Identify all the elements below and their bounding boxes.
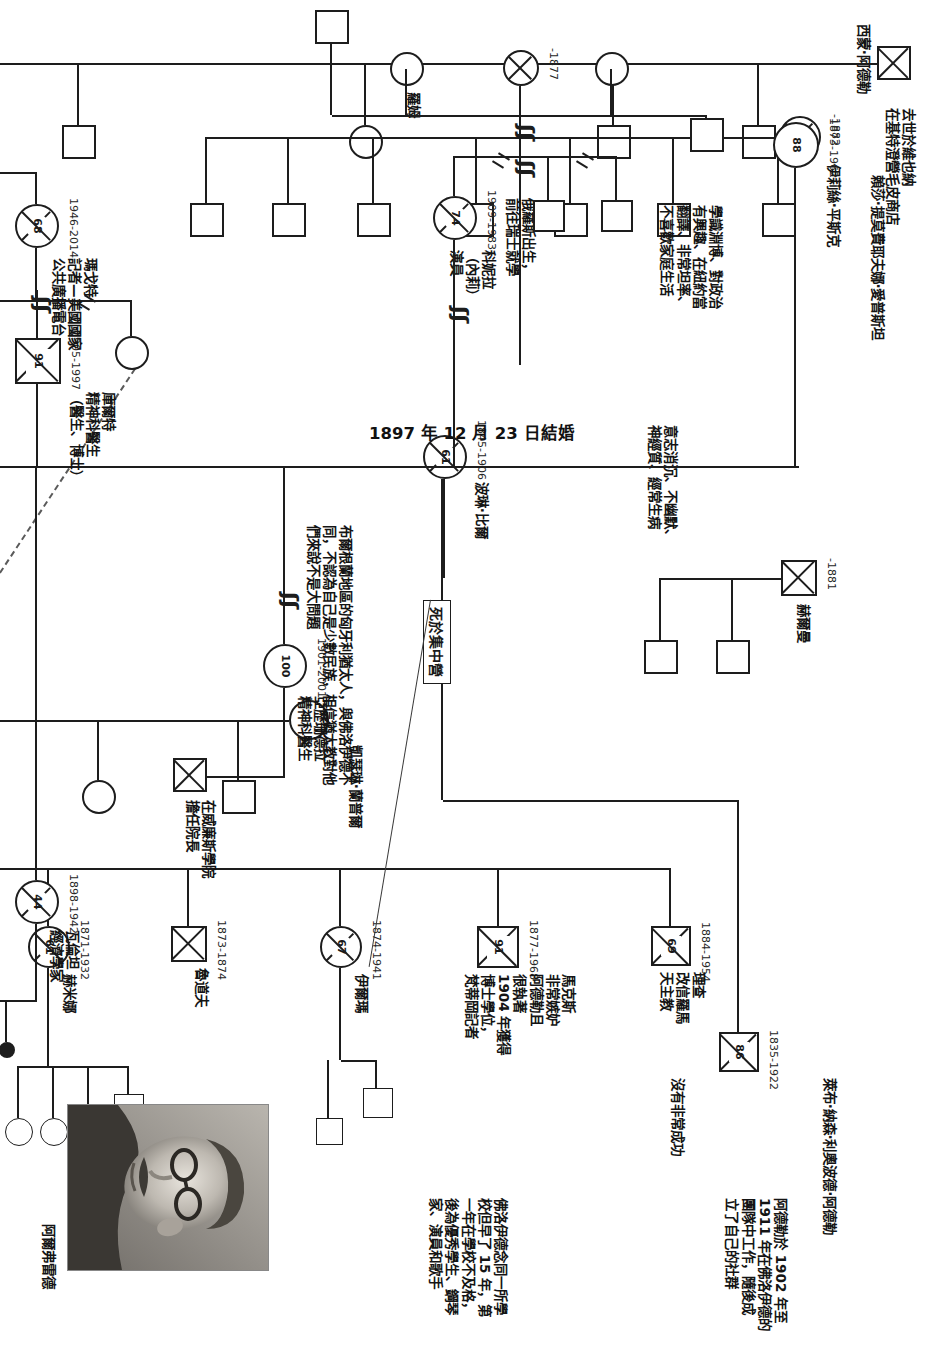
person-symbol-gen1-child-c[interactable] bbox=[349, 125, 383, 159]
line-katharina-bus bbox=[0, 720, 289, 722]
person-symbol-irma[interactable]: 67 bbox=[320, 926, 362, 968]
age-raissa: 88 bbox=[783, 132, 809, 158]
line-valentine-k1 bbox=[5, 1000, 7, 1042]
line-margot-down bbox=[35, 172, 37, 204]
age-richard: 69 bbox=[661, 936, 682, 957]
line-sib-max bbox=[497, 868, 499, 926]
person-symbol-katharina-child-1[interactable] bbox=[222, 780, 256, 814]
divorce-mark-nelly-1b bbox=[492, 160, 504, 169]
person-label-simon: 西蒙‧阿德勒 bbox=[856, 24, 871, 94]
photo-svg bbox=[68, 1105, 268, 1270]
line-rf-v3 bbox=[407, 115, 521, 117]
years-hermann: -1881 bbox=[826, 558, 837, 590]
person-symbol-max[interactable]: 91 bbox=[477, 926, 519, 968]
person-symbol-elise-child-6[interactable] bbox=[272, 203, 306, 237]
line-margot-h bbox=[35, 248, 37, 300]
person-symbol-elise-child-5[interactable] bbox=[357, 203, 391, 237]
person-label-rudolf: 魯道夫 bbox=[194, 968, 209, 1007]
age-valentine: 44 bbox=[25, 890, 50, 915]
conflict-mark-raissa-origin-1: ʃʃ bbox=[515, 124, 537, 140]
line-irma-c2 bbox=[327, 1060, 329, 1118]
person-symbol-kurt-wife-1[interactable] bbox=[115, 336, 149, 370]
genogram-landscape-canvas: 西蒙‧阿德勒 去世於維也納 在基特澄營毛皮商店 有其他手足但不清楚多少 86 1… bbox=[0, 0, 929, 1354]
conflict-mark-raissa-origin-2: ʃʃ bbox=[515, 160, 537, 176]
line-hermine-c1 bbox=[127, 1066, 129, 1094]
line-irma-h bbox=[339, 968, 341, 1060]
person-symbol-nelly-husband-2[interactable] bbox=[601, 200, 633, 232]
person-label-pauline: 波琳‧比爾 bbox=[474, 482, 489, 539]
person-symbol-hermine-child-3[interactable] bbox=[40, 1118, 68, 1146]
line-nelly-u2v bbox=[549, 156, 617, 158]
years-rudolf: 1873-1874 bbox=[216, 920, 227, 980]
years-raissa-aunt: -1877 bbox=[548, 48, 559, 80]
person-symbol-hermann-child-1[interactable] bbox=[716, 640, 750, 674]
person-symbol-simon[interactable] bbox=[877, 46, 911, 80]
person-symbol-katharina-child-2[interactable] bbox=[82, 780, 116, 814]
person-symbol-hermann[interactable] bbox=[781, 560, 817, 596]
line-union-to-leopold bbox=[737, 800, 739, 1032]
note-richard: 理查 改信羅馬 天主教 bbox=[658, 972, 707, 1024]
line-valentine-to-bus bbox=[35, 466, 37, 880]
person-symbol-raissa[interactable]: 88 bbox=[773, 122, 819, 168]
line-elise-c6 bbox=[287, 137, 289, 203]
genogram-page: 西蒙‧阿德勒 去世於維也納 在基特澄營毛皮商店 有其他手足但不清楚多少 86 1… bbox=[0, 0, 929, 1354]
line-alexandra-sp-v bbox=[207, 776, 285, 778]
line-katharina-c2 bbox=[97, 720, 99, 780]
person-symbol-nelly-husband-1[interactable] bbox=[533, 200, 565, 232]
line-sib-richard bbox=[669, 868, 671, 926]
person-symbol-romm[interactable] bbox=[390, 52, 424, 86]
line-rf-4 bbox=[405, 69, 407, 115]
line-kurt-w2-v bbox=[0, 300, 38, 302]
person-symbol-hermann-child-2[interactable] bbox=[644, 640, 678, 674]
line-marriage-bus bbox=[0, 466, 799, 468]
person-symbol-valentine[interactable]: 44 bbox=[15, 880, 59, 924]
person-symbol-gen1-child-d[interactable] bbox=[62, 125, 96, 159]
person-symbol-alexandra[interactable]: 100 bbox=[263, 644, 307, 688]
note-simon: 去世於維也納 在基特澄營毛皮商店 bbox=[885, 108, 917, 225]
line-sibship-bus bbox=[0, 868, 671, 870]
note-nelly-occupation: 科妮拉 （內莉） 演員 bbox=[448, 250, 497, 302]
conflict-mark-alexandra: ʃʃ bbox=[279, 592, 301, 608]
person-symbol-elise-child-7[interactable] bbox=[190, 203, 224, 237]
person-symbol-margot[interactable]: 68 bbox=[15, 204, 59, 248]
years-raissa: 1873-1962 bbox=[828, 118, 839, 178]
person-symbol-rudolf[interactable] bbox=[171, 926, 207, 962]
person-symbol-raissa-aunt[interactable] bbox=[503, 50, 539, 86]
line-hermann-c1 bbox=[731, 578, 733, 640]
person-symbol-elise-child-1[interactable] bbox=[762, 203, 796, 237]
note-alfred-bottom-label: 阿爾弗雷德 bbox=[41, 1224, 57, 1289]
person-symbol-gen1-child-a[interactable] bbox=[742, 125, 776, 159]
person-symbol-leopold[interactable]: 86 bbox=[719, 1032, 759, 1072]
line-nelly-u1 bbox=[547, 156, 549, 200]
line-hermine-c4 bbox=[17, 1066, 19, 1118]
age-margot: 68 bbox=[25, 214, 50, 239]
person-symbol-richard[interactable]: 69 bbox=[651, 926, 691, 966]
person-symbol-hermine-child-4[interactable] bbox=[5, 1118, 33, 1146]
person-symbol-raissa-sibling-sq[interactable] bbox=[315, 10, 349, 44]
note-margot-occupation: 瑪戈特 記者—美國國家 公共廣播電台 bbox=[50, 258, 99, 350]
person-symbol-irma-child-2[interactable] bbox=[316, 1118, 343, 1145]
line-margot-kidsv bbox=[0, 172, 37, 174]
line-sib-irma bbox=[339, 868, 341, 926]
person-symbol-nelly[interactable]: 74 bbox=[433, 196, 477, 240]
line-valentine-kids-h bbox=[35, 924, 37, 1000]
years-max: 1877-1968 bbox=[528, 920, 539, 980]
person-symbol-alexandra-spouse[interactable] bbox=[173, 758, 207, 792]
person-symbol-raissa-mother[interactable] bbox=[595, 52, 629, 86]
years-leopold: 1835-1922 bbox=[768, 1030, 779, 1090]
person-label-leopold: 萊布‧納森‧利奧波德‧阿德勒 bbox=[822, 1078, 837, 1235]
line-elise-c2 bbox=[672, 137, 674, 203]
person-label-raissa: 賴莎‧提莫費耶夫娜‧愛普斯坦 bbox=[870, 175, 885, 340]
years-valentine: 1898-1942 bbox=[68, 874, 79, 934]
line-hermine-c3 bbox=[52, 1066, 54, 1118]
years-margot: 1946-2014 bbox=[68, 198, 79, 258]
person-symbol-valentine-baby-1934[interactable] bbox=[0, 1042, 15, 1058]
line-gen1-branch-a bbox=[757, 63, 759, 125]
line-alexandra-spouse bbox=[283, 688, 285, 776]
person-symbol-irma-child-1[interactable] bbox=[363, 1088, 393, 1118]
line-rf-1 bbox=[610, 69, 612, 115]
person-symbol-gen1-child-b[interactable] bbox=[597, 125, 631, 159]
line-rf-5 bbox=[330, 44, 332, 115]
person-symbol-raissa-father[interactable] bbox=[690, 118, 724, 152]
age-leopold: 86 bbox=[729, 1042, 750, 1063]
